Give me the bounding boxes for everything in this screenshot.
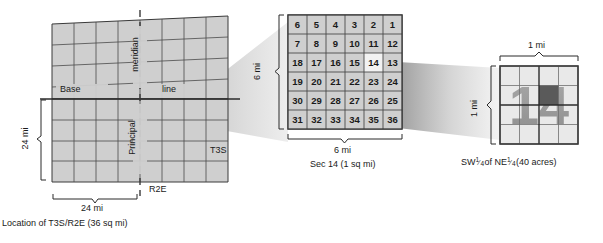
quarter-quarter-grid: 14 [500,66,578,144]
section-number: 32 [311,114,322,125]
bracket-height-24mi [37,100,46,180]
bracket-width-24mi [53,194,137,203]
section-number: 26 [368,95,379,106]
section-number: 6 [295,19,300,30]
section-number: 18 [292,57,303,68]
label-range-r2e: R2E [149,185,167,194]
label-meridian: meridian [131,37,140,72]
section-number: 29 [311,95,322,106]
section-number: 23 [368,76,379,87]
section-number: 11 [368,38,379,49]
section-number: 25 [387,95,398,106]
section-number: 30 [292,95,303,106]
dim-section-height-6mi: 6 mi [253,63,262,80]
section-number: 31 [292,114,303,125]
section-number: 14 [368,57,379,68]
section-number: 10 [349,38,360,49]
section-number: 20 [311,76,322,87]
section-number: 34 [349,114,360,125]
section-number: 3 [352,19,357,30]
dim-section-width-6mi: 6 mi [334,146,351,155]
projection-cone-right [398,62,500,140]
section-number: 4 [333,19,339,30]
section-number: 21 [330,76,341,87]
section-number: 8 [314,38,319,49]
label-base: Base [60,85,81,94]
bracket-quarter-width-1mi [500,52,578,61]
section-number: 9 [333,38,338,49]
section-number: 36 [387,114,398,125]
dim-left-height-24mi: 24 mi [21,127,30,149]
caption-left-panel: Location of T3S/R2E (36 sq mi) [2,219,127,228]
dim-left-width-24mi: 24 mi [81,204,103,213]
caption-quarter-grid: SW 1 ⁄ 4 of NE 1 ⁄ 4 (40 acres) [461,158,557,169]
section-number: 1 [390,19,396,30]
label-line: line [162,85,176,94]
caption-section-grid: Sec 14 (1 sq mi) [310,160,376,169]
section-number: 19 [292,76,303,87]
label-principal: Principal [128,120,137,155]
dim-quarter-height-1mi: 1 mi [470,100,479,117]
caption-quarter-mid: of NE [485,158,508,167]
dim-quarter-width-1mi: 1 mi [528,41,545,50]
section-number: 28 [330,95,341,106]
fraction-one-quarter-a: 1 ⁄ 4 [476,158,485,169]
fraction-one-quarter-b: 1 ⁄ 4 [507,158,516,169]
section-number: 33 [330,114,341,125]
section-number: 27 [349,95,360,106]
caption-quarter-suffix: (40 acres) [516,158,557,167]
section-number: 16 [330,57,341,68]
section-number: 22 [349,76,360,87]
figure-canvas: 6543217891011121817161514131920212223243… [0,0,603,243]
section-grid: 6543217891011121817161514131920212223243… [288,15,402,129]
township-location-grid [40,10,240,196]
label-township-t3s: T3S [210,146,227,155]
section-number: 12 [387,38,398,49]
section-number: 35 [368,114,379,125]
section-number: 2 [371,19,376,30]
section-number: 17 [311,57,322,68]
section-number: 13 [387,57,398,68]
section-number: 5 [314,19,320,30]
caption-quarter-prefix: SW [461,158,476,167]
section-number: 7 [295,38,300,49]
bracket-section-width-6mi [288,134,402,143]
section-number: 15 [349,57,360,68]
section-number: 24 [387,76,398,87]
